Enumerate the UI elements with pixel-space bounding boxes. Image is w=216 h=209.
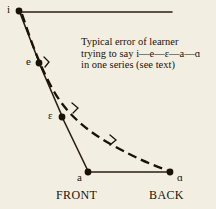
diagram-canvas [0, 0, 216, 209]
vowel-dot-a [85, 169, 92, 176]
vowel-dot-e [36, 60, 43, 67]
vowel-point-dots [16, 8, 174, 176]
vowel-diagram-figure: i e ɛ a ɑ Typical error of learner tryin… [0, 0, 216, 209]
direction-tick-2 [72, 103, 78, 113]
axis-label-back: BACK [149, 188, 184, 203]
caption-line-3: in one series (see text) [81, 59, 213, 71]
caption-line-2-prefix: trying to say [81, 48, 134, 59]
vowel-label-a: a [77, 172, 82, 183]
vowel-label-epsilon: ɛ [48, 110, 53, 121]
axis-label-front: FRONT [56, 188, 97, 203]
caption-vowel-sequence: i—e—ɛ—a—ɑ [136, 48, 200, 59]
vowel-dot-i [16, 8, 23, 15]
vowel-label-i: i [7, 4, 10, 15]
caption-line-2: trying to say i—e—ɛ—a—ɑ [81, 48, 213, 60]
vowel-dot-epsilon [59, 114, 66, 121]
caption-line-1: Typical error of learner [81, 36, 213, 48]
vowel-label-alpha: ɑ [177, 172, 183, 183]
vowel-dot-alpha [167, 169, 174, 176]
direction-tick-1 [44, 57, 49, 67]
direction-tick-3 [110, 135, 116, 145]
vowel-label-e: e [26, 56, 31, 67]
caption-block: Typical error of learner trying to say i… [81, 36, 213, 71]
